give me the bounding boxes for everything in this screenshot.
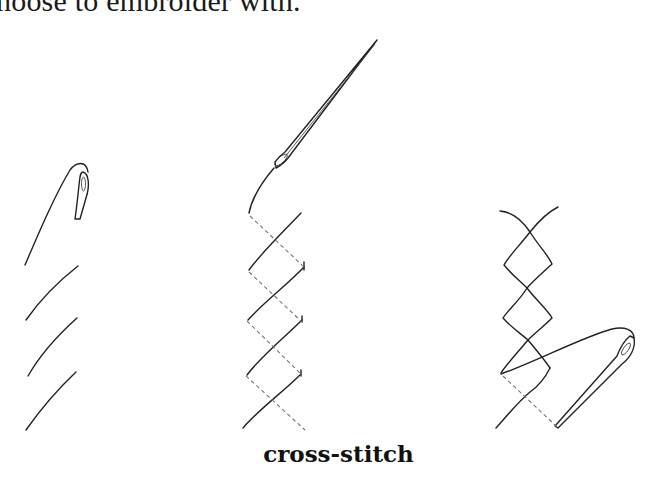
step-1-figure — [25, 164, 88, 431]
needle-icon — [555, 336, 634, 428]
step-2-figure — [243, 40, 377, 430]
step-3-figure — [496, 207, 634, 428]
figure-caption: cross-stitch — [0, 440, 663, 467]
needle-icon — [75, 172, 88, 219]
cross-stitch-illustration — [0, 0, 663, 484]
needle-icon — [273, 40, 377, 168]
